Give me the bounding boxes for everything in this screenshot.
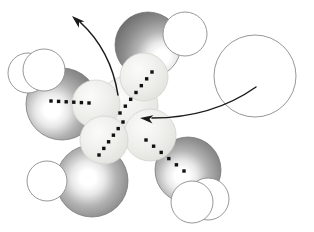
bond-dot (145, 77, 148, 80)
nucleophile-sphere-layer (214, 35, 296, 117)
incoming-nucleophile-sphere (214, 35, 296, 117)
bond-dot (134, 91, 137, 94)
bond-dot (144, 138, 147, 141)
bond-dot (97, 153, 100, 156)
bond-dot (57, 100, 60, 103)
bond-dot (87, 101, 90, 104)
molecular-diagram-figure: Space-filling molecular reaction model N… (0, 0, 314, 232)
white-sphere-front-layer (171, 178, 229, 223)
hydrogen-bottom-left-sphere (27, 161, 67, 201)
bond-dot (102, 147, 105, 150)
bond-dot (167, 157, 170, 160)
hydrogen-top-left-inner-sphere (23, 49, 65, 91)
bond-dot (117, 127, 120, 130)
hydrogen-bottom-right-inner-sphere (171, 181, 213, 223)
bond-dot (49, 99, 52, 102)
bond-dot (175, 163, 178, 166)
bond-dot (80, 101, 83, 104)
light-sphere-layer (72, 53, 176, 164)
bond-dot (65, 100, 68, 103)
bond-dot (107, 140, 110, 143)
bond-dot (72, 101, 75, 104)
center-northeast-sphere (120, 53, 168, 101)
bond-dot (124, 104, 127, 107)
bond-dot (160, 151, 163, 154)
bond-dot (118, 111, 121, 114)
molecule-canvas (0, 0, 314, 232)
bond-dot (140, 84, 143, 87)
bond-dot (182, 169, 185, 172)
center-southwest-sphere (80, 116, 128, 164)
leaving-group-arrow-head (69, 13, 84, 28)
bond-dot (129, 98, 132, 101)
bond-dot (150, 70, 153, 73)
bond-dot (121, 120, 124, 123)
bond-dot (112, 134, 115, 137)
hydrogen-top-right-sphere (163, 12, 207, 56)
bond-dot (152, 145, 155, 148)
